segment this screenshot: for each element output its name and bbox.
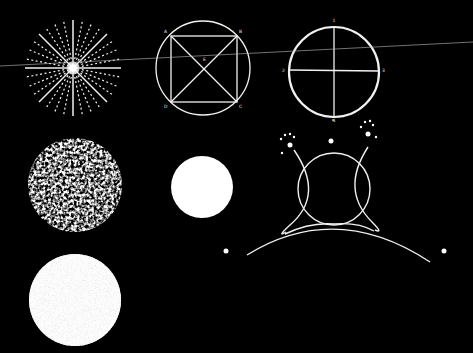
label-3: 3 (382, 68, 385, 73)
label-d: D (164, 104, 168, 109)
label-c: C (239, 104, 242, 109)
horned-orb-figure (247, 147, 430, 262)
label-e: E (203, 57, 206, 62)
label-2: 2 (282, 68, 285, 73)
solid-disk (171, 156, 233, 218)
speckled-sphere (29, 254, 121, 346)
label-1: 1 (333, 18, 336, 23)
label-b: B (239, 29, 242, 34)
star-clusters (224, 119, 447, 253)
mottled-sphere (28, 138, 122, 232)
starburst-core (67, 62, 79, 74)
starburst-figure (25, 20, 121, 116)
right-horn (355, 147, 379, 231)
left-horn (282, 150, 309, 234)
illustration-canvas: A B C D E 1 2 3 4 (0, 0, 473, 353)
ground-arc (247, 229, 430, 262)
horizontal-diameter (289, 70, 379, 71)
inscribed-square-figure (156, 21, 250, 115)
quartered-circle-figure (289, 27, 379, 117)
label-a: A (164, 29, 168, 34)
